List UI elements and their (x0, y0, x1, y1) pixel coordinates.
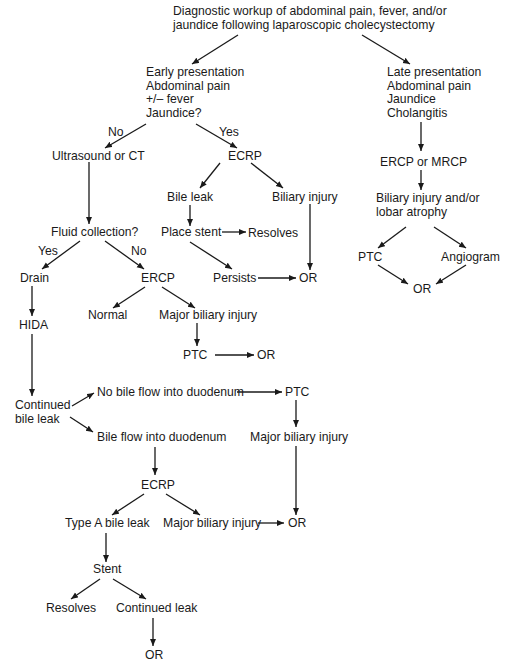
persists-node: Persists (213, 272, 256, 286)
biliary-injury-atrophy-node: Biliary injury and/or lobar atrophy (376, 192, 480, 219)
continued-bile-leak-node: Continued bile leak (15, 399, 71, 426)
root-node: Diagnostic workup of abdominal pain, fev… (173, 5, 447, 32)
stent-node: Stent (93, 563, 121, 577)
or-node: OR (413, 283, 431, 297)
node-line: Abdominal pain (387, 80, 481, 94)
bile-flow-node: Bile flow into duodenum (97, 431, 226, 445)
resolves-node: Resolves (46, 602, 96, 616)
hida-node: HIDA (19, 319, 48, 333)
root-line: Diagnostic workup of abdominal pain, fev… (173, 5, 447, 19)
type-a-bile-leak-node: Type A bile leak (65, 517, 150, 531)
resolves-node: Resolves (248, 227, 298, 241)
ercp-mrcp-node: ERCP or MRCP (380, 156, 467, 170)
fluid-collection-node: Fluid collection? (51, 226, 138, 240)
or-node: OR (288, 517, 306, 531)
node-line: Abdominal pain (146, 80, 244, 94)
edge-label-yes: Yes (219, 126, 239, 140)
biliary-injury-node: Biliary injury (272, 191, 338, 205)
node-line: +/– fever (146, 93, 244, 107)
ptc-node: PTC (358, 251, 382, 265)
or-node: OR (299, 272, 317, 286)
edge-label-yes: Yes (38, 245, 58, 259)
ultrasound-ct-node: Ultrasound or CT (52, 150, 145, 164)
node-line: Jaundice (387, 93, 481, 107)
node-line: Continued (15, 399, 71, 413)
drain-node: Drain (20, 272, 49, 286)
node-line: Late presentation (387, 66, 481, 80)
or-node: OR (257, 349, 275, 363)
major-biliary-injury-node: Major biliary injury (159, 309, 257, 323)
ercp-node: ERCP (141, 272, 175, 286)
early-presentation-node: Early presentation Abdominal pain +/– fe… (146, 66, 244, 120)
no-bile-flow-node: No bile flow into duodenum (97, 386, 244, 400)
or-node: OR (145, 649, 163, 663)
node-line: bile leak (15, 413, 71, 427)
node-line: lobar atrophy (376, 206, 480, 220)
ptc-node: PTC (183, 349, 207, 363)
edge-label-no: No (108, 126, 124, 140)
node-line: Biliary injury and/or (376, 192, 480, 206)
major-biliary-injury-node: Major biliary injury (250, 431, 348, 445)
edge-label-no: No (131, 245, 147, 259)
ptc-node: PTC (285, 386, 309, 400)
node-line: Jaundice? (146, 107, 244, 121)
continued-leak-node: Continued leak (116, 602, 197, 616)
root-line: jaundice following laparoscopic cholecys… (173, 19, 447, 33)
normal-node: Normal (88, 309, 127, 323)
place-stent-node: Place stent (161, 226, 221, 240)
ecrp-node: ECRP (228, 150, 262, 164)
angiogram-node: Angiogram (441, 251, 500, 265)
bile-leak-node: Bile leak (167, 191, 213, 205)
late-presentation-node: Late presentation Abdominal pain Jaundic… (387, 66, 481, 120)
node-line: Cholangitis (387, 107, 481, 121)
major-biliary-injury-node: Major biliary injury (163, 517, 261, 531)
ecrp-node: ECRP (141, 479, 175, 493)
node-line: Early presentation (146, 66, 244, 80)
